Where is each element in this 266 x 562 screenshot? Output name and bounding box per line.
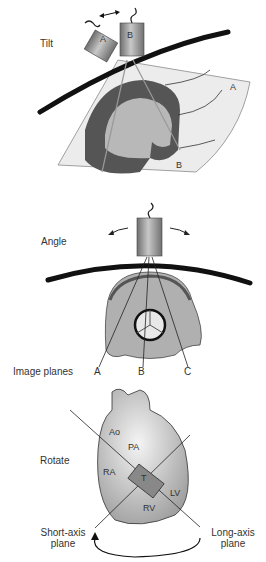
plane-c-label: C bbox=[184, 366, 191, 377]
rotate-label: Rotate bbox=[40, 455, 69, 466]
rotate-arrow bbox=[95, 538, 201, 557]
ao-label: Ao bbox=[109, 427, 120, 437]
plane-a-label: A bbox=[230, 82, 236, 92]
rv-label: RV bbox=[143, 503, 155, 513]
angle-panel bbox=[48, 203, 250, 367]
image-planes-label: Image planes bbox=[13, 366, 73, 377]
pa-label: PA bbox=[128, 442, 139, 452]
short-axis-label: Short-axis plane bbox=[38, 527, 88, 549]
tilt-label: Tilt bbox=[40, 38, 53, 49]
probe bbox=[137, 218, 162, 256]
long-axis-label: Long-axis plane bbox=[208, 527, 258, 549]
tilt-panel bbox=[40, 8, 250, 174]
ra-label: RA bbox=[103, 467, 116, 477]
probe-b-label: B bbox=[127, 30, 133, 40]
plane-a-label: A bbox=[94, 366, 101, 377]
angle-label: Angle bbox=[41, 236, 67, 247]
rotate-panel bbox=[70, 389, 200, 557]
diagram-graphics bbox=[0, 0, 266, 562]
probe-a-label: A bbox=[100, 34, 106, 44]
plane-b-label: B bbox=[138, 366, 145, 377]
plane-b-label: B bbox=[176, 160, 182, 170]
lv-label: LV bbox=[170, 488, 180, 498]
t-label: T bbox=[141, 473, 147, 483]
